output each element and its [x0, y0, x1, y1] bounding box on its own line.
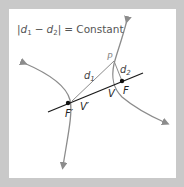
point-p-label: P: [107, 52, 113, 62]
left-branch-curve: [24, 63, 71, 166]
equation-label: |d1−d2|= Constant: [17, 23, 124, 37]
d1-label: d1: [84, 70, 95, 83]
focus-f-point: [120, 79, 124, 83]
focus-f-prime-point: [66, 101, 70, 105]
vertex-v-prime-label: V′: [80, 101, 90, 112]
focus-f-label: F: [123, 85, 129, 96]
hyperbola-diagram: |d1−d2|= Constant P d1 d2 F V F′ V′: [0, 0, 184, 187]
focus-f-prime-label: F′: [65, 108, 74, 119]
vertex-v-label: V: [108, 88, 116, 99]
d2-label: d2: [120, 64, 131, 77]
